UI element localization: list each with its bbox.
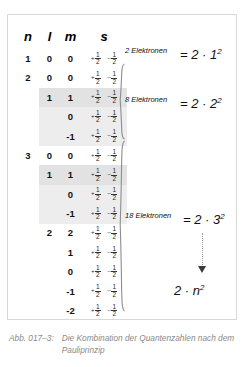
cell-n: 2 — [17, 68, 39, 87]
spin-sign: – — [108, 249, 111, 255]
fraction-denominator: 2 — [95, 58, 101, 66]
spin-value: –12 — [108, 246, 117, 260]
fraction: 12 — [111, 149, 117, 163]
fraction-denominator: 2 — [111, 155, 117, 163]
annotation-formula-0: = 2 · 12 — [180, 47, 222, 62]
fraction: 12 — [111, 90, 117, 104]
cell-m: 1 — [60, 243, 81, 262]
spin-value: +12 — [91, 187, 101, 201]
spin-value: +12 — [91, 168, 101, 182]
caption-label: Abb. 017–3: — [9, 333, 54, 356]
table-row: -1+12–12 — [17, 204, 127, 223]
fraction-denominator: 2 — [95, 194, 101, 202]
cell-n — [17, 165, 39, 184]
cell-m: 0 — [60, 146, 81, 165]
cell-m: 0 — [60, 68, 81, 87]
cell-m: -1 — [60, 127, 81, 146]
spin-sign: + — [91, 55, 95, 61]
table-row: 22+12–12 — [17, 224, 127, 243]
fraction-denominator: 2 — [111, 233, 117, 241]
spin-value: –12 — [108, 265, 117, 279]
spin-sign: – — [108, 171, 111, 177]
fraction-denominator: 2 — [111, 194, 117, 202]
table-header-row: n l m s — [17, 26, 127, 49]
cell-l: 2 — [39, 224, 60, 243]
table-row: 100+12–12 — [17, 49, 127, 68]
cell-n — [17, 282, 39, 301]
annotation-formula-2: = 2 · 32 — [183, 212, 225, 227]
column-header-n: n — [17, 26, 39, 49]
spin-value: +12 — [91, 129, 101, 143]
cell-m: 0 — [60, 49, 81, 68]
fraction: 12 — [111, 246, 117, 260]
quantum-numbers-table: n l m s 100+12–12200+12–1211+12–120+12–1… — [17, 26, 127, 320]
spin-sign: – — [108, 152, 111, 158]
spin-value: –12 — [108, 110, 117, 124]
spin-sign: – — [108, 268, 111, 274]
fraction: 12 — [95, 284, 101, 298]
fraction: 12 — [111, 52, 117, 66]
spin-value: –12 — [108, 149, 117, 163]
spin-sign: – — [108, 74, 111, 80]
fraction-denominator: 2 — [95, 233, 101, 241]
fraction-denominator: 2 — [95, 78, 101, 86]
spin-value: –12 — [108, 284, 117, 298]
fraction-denominator: 2 — [95, 310, 101, 318]
general-formula: 2 · n2 — [174, 283, 204, 298]
formula-prefix-2: = 2 · — [183, 212, 213, 227]
fraction: 12 — [111, 129, 117, 143]
fraction: 12 — [95, 90, 101, 104]
fraction: 12 — [95, 246, 101, 260]
general-formula-prefix: 2 · — [174, 283, 193, 298]
fraction-denominator: 2 — [95, 213, 101, 221]
spin-value: +12 — [91, 90, 101, 104]
spin-sign: + — [91, 152, 95, 158]
spin-sign: + — [91, 307, 95, 313]
cell-l: 0 — [39, 146, 60, 165]
spin-sign: + — [91, 287, 95, 293]
fraction-denominator: 2 — [95, 136, 101, 144]
cell-l — [39, 282, 60, 301]
cell-l — [39, 301, 60, 320]
column-header-l: l — [39, 26, 60, 49]
arrow-shaft — [202, 233, 203, 269]
fraction-denominator: 2 — [111, 213, 117, 221]
spin-value: +12 — [91, 71, 101, 85]
fraction: 12 — [111, 226, 117, 240]
fraction-denominator: 2 — [95, 291, 101, 299]
spin-sign: + — [91, 229, 95, 235]
cell-n — [17, 127, 39, 146]
table-row: 0+12–12 — [17, 185, 127, 204]
fraction: 12 — [111, 110, 117, 124]
fraction: 12 — [95, 149, 101, 163]
fraction: 12 — [111, 168, 117, 182]
table-row: 200+12–12 — [17, 68, 127, 87]
spin-value: +12 — [91, 110, 101, 124]
spin-sign: + — [91, 249, 95, 255]
fraction-denominator: 2 — [111, 78, 117, 86]
spin-sign: – — [108, 93, 111, 99]
fraction: 12 — [95, 52, 101, 66]
cell-m: 0 — [60, 262, 81, 281]
spin-value: +12 — [91, 284, 101, 298]
fraction: 12 — [95, 110, 101, 124]
cell-m: 0 — [60, 107, 81, 126]
cell-n — [17, 88, 39, 107]
spin-value: –12 — [108, 129, 117, 143]
table-row: 0+12–12 — [17, 107, 127, 126]
fraction: 12 — [95, 129, 101, 143]
spin-sign: – — [108, 190, 111, 196]
general-formula-base: n — [193, 283, 200, 298]
spin-sign: + — [91, 132, 95, 138]
fraction-denominator: 2 — [111, 291, 117, 299]
formula-prefix-1: = 2 · — [180, 96, 210, 111]
cell-n — [17, 243, 39, 262]
cell-m: 1 — [60, 165, 81, 184]
table-row: -2+12–12 — [17, 301, 127, 320]
figure-frame: n l m s 100+12–12200+12–1211+12–120+12–1… — [7, 14, 237, 320]
spin-value: –12 — [108, 207, 117, 221]
fraction: 12 — [111, 187, 117, 201]
cell-m: -1 — [60, 282, 81, 301]
fraction: 12 — [95, 168, 101, 182]
spin-sign: + — [91, 268, 95, 274]
